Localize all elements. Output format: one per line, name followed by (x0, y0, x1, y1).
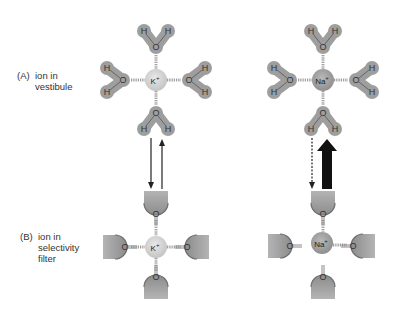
sodium-ion: Na+ (312, 69, 334, 91)
svg-text:O: O (121, 242, 128, 252)
svg-text:H: H (271, 63, 278, 73)
na-vestibule-complex: O H H O H H O H H O H H Na+ (267, 24, 379, 136)
carbonyl-bottom (144, 265, 168, 299)
svg-text:O: O (286, 241, 293, 251)
svg-text:H: H (104, 87, 111, 97)
svg-text:H: H (104, 63, 111, 73)
svg-text:H: H (308, 26, 315, 36)
svg-text:O: O (185, 75, 192, 85)
bold-arrow-up-icon (317, 139, 337, 151)
k-equilibrium-arrows (148, 138, 165, 189)
svg-text:O: O (119, 75, 126, 85)
diagram-canvas: O H H O H H O H H O H H (0, 0, 408, 329)
svg-text:H: H (332, 124, 339, 134)
svg-text:O: O (352, 75, 359, 85)
svg-text:H: H (165, 26, 172, 36)
svg-text:O: O (152, 272, 159, 282)
svg-text:H: H (308, 124, 315, 134)
svg-text:H: H (141, 26, 148, 36)
svg-text:O: O (319, 209, 326, 219)
arrow-up-icon (159, 139, 165, 146)
carbonyl-left (268, 234, 302, 258)
svg-text:H: H (141, 124, 148, 134)
svg-text:O: O (349, 241, 356, 251)
carbonyl-bottom (311, 265, 335, 299)
svg-text:O: O (319, 272, 326, 282)
svg-text:H: H (332, 26, 339, 36)
carbonyl-top (144, 191, 168, 225)
svg-text:H: H (202, 63, 209, 73)
svg-text:O: O (286, 75, 293, 85)
k-vestibule-complex: O H H O H H O H H O H H (100, 24, 212, 136)
svg-text:H: H (369, 87, 376, 97)
potassium-ion-filter: K+ (145, 236, 167, 258)
svg-text:H: H (202, 87, 209, 97)
svg-text:O: O (319, 108, 326, 118)
arrow-down-icon (148, 182, 154, 189)
svg-text:O: O (152, 42, 159, 52)
svg-text:H: H (369, 63, 376, 73)
svg-text:O: O (319, 42, 326, 52)
svg-text:O: O (152, 209, 159, 219)
na-equilibrium-arrows (309, 138, 337, 189)
na-filter-complex: O O O O Na+ (268, 191, 375, 299)
svg-text:H: H (271, 87, 278, 97)
carbonyl-left (103, 235, 137, 259)
sodium-ion-filter: Na+ (311, 232, 333, 254)
svg-text:O: O (152, 108, 159, 118)
water-molecule-top: O H H (137, 24, 175, 54)
svg-text:H: H (165, 124, 172, 134)
svg-text:O: O (183, 242, 190, 252)
potassium-ion: K+ (145, 69, 167, 91)
k-filter-complex: O O O O K+ (103, 191, 209, 299)
carbonyl-top (311, 191, 335, 225)
dashed-arrow-down-icon (309, 182, 315, 189)
